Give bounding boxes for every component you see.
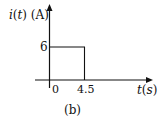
x-axis-label: t(s) — [137, 84, 157, 96]
x-label-t: t — [137, 83, 142, 97]
y-label-t: t — [18, 8, 23, 22]
figure-caption: (b) — [64, 104, 81, 116]
y-label-unit: (A) — [31, 8, 49, 22]
x-tick-4-5: 4.5 — [77, 84, 95, 95]
pulse-waveform — [50, 47, 85, 80]
x-tick-0: 0 — [52, 84, 59, 95]
y-label-i: i — [9, 8, 13, 22]
y-tick-6: 6 — [40, 41, 48, 53]
x-label-s: s — [147, 83, 153, 97]
y-axis-label: i(t) (A) — [9, 9, 49, 21]
